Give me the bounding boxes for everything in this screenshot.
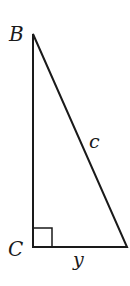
triangle-diagram: B C c y	[0, 0, 130, 286]
vertex-label-c: C	[8, 237, 23, 261]
right-angle-marker	[33, 228, 52, 247]
vertex-label-b: B	[8, 22, 24, 46]
right-triangle	[33, 34, 127, 247]
hypotenuse-label: c	[89, 130, 100, 152]
side-label-y: y	[72, 248, 84, 270]
